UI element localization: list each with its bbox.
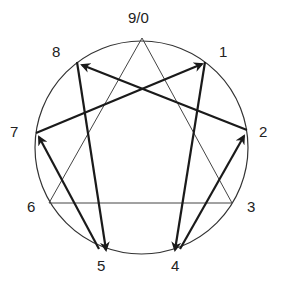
point-label-5: 5 — [97, 258, 105, 273]
arrow-5-to-7 — [39, 137, 99, 249]
enneagram-diagram — [0, 0, 282, 288]
point-label-3: 3 — [247, 199, 255, 214]
point-label-4: 4 — [171, 258, 179, 273]
point-label-1: 1 — [219, 44, 227, 59]
arrow-8-to-5 — [77, 62, 106, 250]
arrow-2-to-8 — [82, 65, 247, 130]
point-label-7: 7 — [10, 124, 18, 139]
point-label-9: 9/0 — [128, 10, 149, 25]
point-label-2: 2 — [259, 124, 267, 139]
point-label-8: 8 — [52, 44, 60, 59]
point-label-6: 6 — [27, 199, 35, 214]
arrow-lines — [36, 62, 247, 250]
arrow-7-to-1 — [36, 64, 202, 133]
arrow-1-to-4 — [175, 62, 205, 250]
enneagram-circle — [35, 41, 248, 254]
